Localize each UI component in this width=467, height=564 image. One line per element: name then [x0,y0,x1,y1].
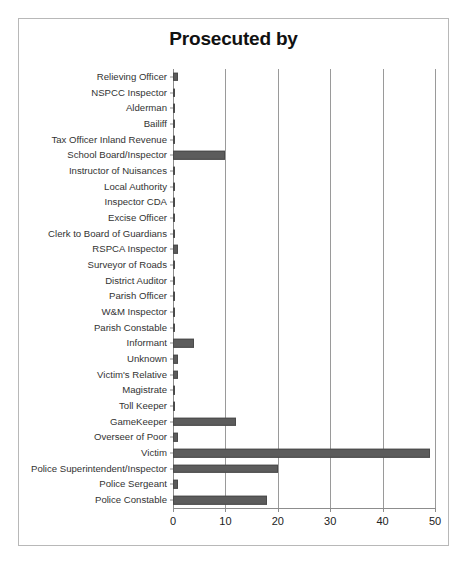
x-tick-mark [330,508,331,512]
category-label: Informant [126,339,167,349]
bar[interactable] [173,151,225,160]
x-tick-mark [173,508,174,512]
bar-row: School Board/Inspector [173,147,435,163]
bar-row: Police Superintendent/Inspector [173,461,435,477]
category-label: Inspector CDA [105,197,167,207]
bar[interactable] [173,261,175,270]
bar-row: Instructor of Nuisances [173,163,435,179]
x-tick-mark [225,508,226,512]
bar-row: Police Sergeant [173,477,435,493]
bar-row: NSPCC Inspector [173,85,435,101]
bar[interactable] [173,418,236,427]
bar[interactable] [173,496,267,505]
bar-row: Bailiff [173,116,435,132]
bar-row: Alderman [173,100,435,116]
category-label: Clerk to Board of Guardians [48,229,167,239]
bar[interactable] [173,182,175,191]
chart-title: Prosecuted by [19,28,448,50]
category-label: Police Superintendent/Inspector [31,464,167,474]
category-label: Toll Keeper [119,401,167,411]
category-label: RSPCA Inspector [92,244,167,254]
x-axis-line [173,508,435,509]
x-tick-label: 30 [324,515,336,527]
bar-row: Clerk to Board of Guardians [173,226,435,242]
bar[interactable] [173,449,430,458]
category-label: Magistrate [122,386,167,396]
bar[interactable] [173,88,175,97]
category-label: School Board/Inspector [67,150,167,160]
x-tick-label: 10 [219,515,231,527]
bar-row: Surveyor of Roads [173,257,435,273]
category-label: Excise Officer [108,213,167,223]
bar-row: Inspector CDA [173,194,435,210]
category-label: Victim's Relative [97,370,167,380]
bar[interactable] [173,433,178,442]
bar[interactable] [173,386,175,395]
bar[interactable] [173,198,175,207]
bar-row: Toll Keeper [173,398,435,414]
bar-row: W&M Inspector [173,304,435,320]
bar[interactable] [173,214,175,223]
bar-row: Magistrate [173,383,435,399]
chart-frame: Prosecuted by Relieving OfficerNSPCC Ins… [18,18,449,546]
bar-row: Excise Officer [173,210,435,226]
category-label: Bailiff [144,119,167,129]
bar[interactable] [173,292,175,301]
x-tick-mark [383,508,384,512]
bar[interactable] [173,167,175,176]
x-tick-mark [278,508,279,512]
bar[interactable] [173,465,278,474]
x-tick-label: 50 [429,515,441,527]
x-tick-label: 40 [376,515,388,527]
bar[interactable] [173,276,175,285]
bar-row: Parish Constable [173,320,435,336]
bar[interactable] [173,135,175,144]
category-label: Tax Officer Inland Revenue [51,135,167,145]
category-label: District Auditor [105,276,167,286]
category-label: Instructor of Nuisances [69,166,167,176]
category-label: Surveyor of Roads [88,260,167,270]
bar-row: Parish Officer [173,289,435,305]
bar-row: District Auditor [173,273,435,289]
bar[interactable] [173,245,178,254]
bar[interactable] [173,480,178,489]
category-label: Police Constable [95,495,167,505]
category-label: Unknown [127,354,167,364]
bar-row: GameKeeper [173,414,435,430]
bar[interactable] [173,229,175,238]
x-tick-mark [435,508,436,512]
bar[interactable] [173,402,175,411]
category-label: Alderman [126,103,167,113]
bar-row: Victim [173,445,435,461]
bar-row: Police Constable [173,492,435,508]
category-label: Police Sergeant [99,480,167,490]
bar[interactable] [173,370,178,379]
category-label: Local Authority [104,182,167,192]
x-tick-label: 20 [272,515,284,527]
bar[interactable] [173,339,194,348]
bar[interactable] [173,308,175,317]
category-label: W&M Inspector [101,307,167,317]
gridline [435,69,436,508]
category-label: Parish Officer [109,292,167,302]
bar[interactable] [173,323,175,332]
category-label: GameKeeper [110,417,167,427]
bar-row: Tax Officer Inland Revenue [173,132,435,148]
bar[interactable] [173,355,178,364]
category-label: Parish Constable [94,323,167,333]
bar[interactable] [173,104,175,113]
bar[interactable] [173,73,178,82]
bar-row: Local Authority [173,179,435,195]
bar-row: Victim's Relative [173,367,435,383]
bar[interactable] [173,120,175,129]
category-label: Victim [141,448,167,458]
category-label: NSPCC Inspector [91,88,167,98]
bar-row: RSPCA Inspector [173,241,435,257]
bar-row: Relieving Officer [173,69,435,85]
plot-area: Relieving OfficerNSPCC InspectorAlderman… [173,69,435,508]
category-label: Overseer of Poor [94,433,167,443]
bar-row: Informant [173,336,435,352]
bar-row: Unknown [173,351,435,367]
x-tick-label: 0 [170,515,176,527]
category-label: Relieving Officer [97,72,167,82]
